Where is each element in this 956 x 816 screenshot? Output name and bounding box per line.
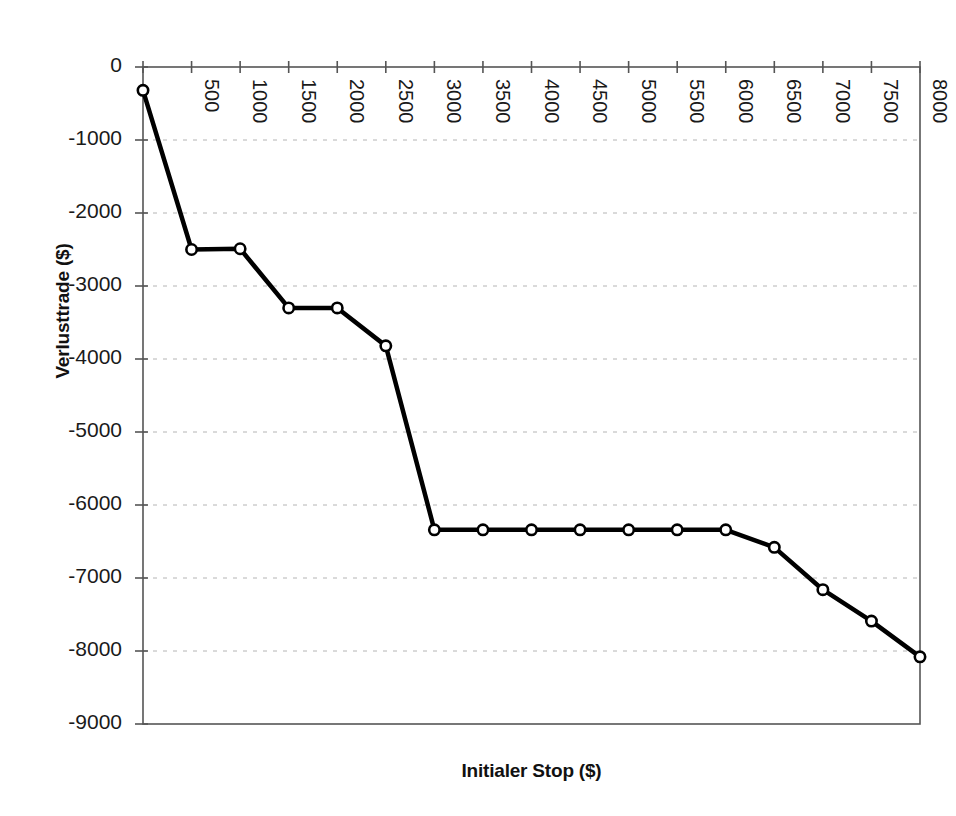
y-tick-label: -3000 (68, 272, 122, 296)
x-tick-label: 7500 (879, 79, 902, 124)
y-tick-label: -6000 (68, 491, 122, 515)
x-tick-label: 3000 (442, 79, 465, 124)
x-tick-label: 7000 (831, 79, 854, 124)
x-tick-label: 6000 (734, 79, 757, 124)
y-tick-label: -5000 (68, 418, 122, 442)
x-axis-title: Initialer Stop ($) (143, 760, 920, 782)
x-tick-label: 3500 (491, 79, 514, 124)
chart-container: 0-1000-2000-3000-4000-5000-6000-7000-800… (0, 0, 956, 816)
line-chart-plot (0, 0, 956, 816)
x-tick-label: 6500 (782, 79, 805, 124)
y-tick-label: -1000 (68, 126, 122, 150)
x-tick-label: 4500 (588, 79, 611, 124)
y-tick-label: -9000 (68, 710, 122, 734)
y-axis-title: Verlusttrade ($) (52, 201, 74, 421)
x-tick-label: 2500 (394, 79, 417, 124)
x-tick-label: 2000 (345, 79, 368, 124)
y-tick-label: -4000 (68, 345, 122, 369)
x-tick-label: 4000 (540, 79, 563, 124)
x-tick-label: 8000 (928, 79, 951, 124)
x-tick-label: 5500 (685, 79, 708, 124)
x-tick-label: 500 (200, 79, 223, 112)
y-axis-ticks (135, 67, 148, 724)
y-tick-label: -7000 (68, 564, 122, 588)
x-tick-label: 5000 (637, 79, 660, 124)
x-tick-label: 1500 (297, 79, 320, 124)
plot-frame (143, 67, 920, 724)
y-tick-label: -8000 (68, 637, 122, 661)
y-tick-label: 0 (110, 53, 122, 77)
x-tick-label: 1000 (248, 79, 271, 124)
data-series-line (143, 90, 920, 656)
y-tick-label: -2000 (68, 199, 122, 223)
